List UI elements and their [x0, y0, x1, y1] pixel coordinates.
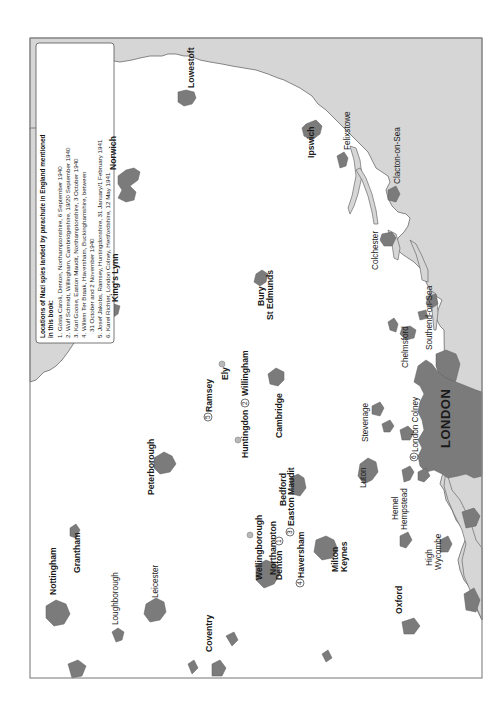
label-nottingham: Nottingham [48, 547, 58, 595]
label-wycombe: Wycombe [434, 533, 443, 570]
label-lowestoft: Lowestoft [186, 47, 196, 88]
label-denton: Denton [274, 550, 284, 580]
legend-item-4b: 31 October and 2 November 1940 [88, 238, 95, 332]
label-ipswich: Ipswich [306, 126, 316, 158]
label-hemel: Hemel [391, 496, 400, 520]
label-coventry: Coventry [204, 615, 214, 652]
label-chelmsford: Chelmsford [401, 326, 410, 368]
label-willingham: Willingham [240, 350, 250, 396]
loughborough-urban [112, 628, 124, 642]
label-london: LONDON [438, 389, 453, 448]
felixstowe-urban [337, 152, 348, 168]
norwich-urban [118, 168, 140, 202]
lowestoft-urban [178, 90, 196, 106]
ely-dot [219, 361, 225, 367]
label-leicester: Leicester [151, 565, 160, 598]
aylesbury-urban [400, 532, 412, 548]
legend-item-3: 3. Karl Goose, Easton Maudit, Northampto… [72, 158, 79, 338]
legend-title: Locations of Nazi spies landed by parach… [39, 134, 47, 338]
nuneaton-urban [188, 660, 198, 674]
oxford-urban [402, 618, 420, 634]
legend-item-1: 1. Gösta Caroli, Denton, Northamptonshir… [56, 166, 63, 338]
legend-item-5: 5. Josef Jakobs, Ramsey, Huntingdonshire… [96, 139, 103, 338]
rugby-urban [226, 632, 238, 646]
label-oxford: Oxford [394, 586, 404, 614]
marker-1: 1 [275, 537, 283, 545]
hatfield-urban [382, 420, 394, 432]
label-st-edmunds: St Edmunds [265, 270, 275, 320]
marker-3: 3 [286, 528, 294, 536]
label-wellingborough: Wellingborough [254, 515, 264, 580]
stevenage-urban [372, 402, 384, 416]
derby-urban [68, 660, 86, 678]
coventry-urban [212, 660, 226, 676]
marker-6: 6 [410, 453, 418, 461]
label-norwich: Norwich [108, 136, 118, 170]
label-cambridge: Cambridge [274, 393, 284, 438]
legend: Locations of Nazi spies landed by parach… [36, 43, 114, 343]
label-southend: Southend-on-Sea [425, 285, 434, 350]
marker-2: 2 [241, 399, 249, 407]
label-huntingdon: Huntingdon [240, 410, 250, 458]
label-easton-maudit: Easton Maudit [286, 467, 296, 526]
nottingham-urban [46, 600, 70, 626]
marker-5-number: 5 [204, 415, 211, 419]
label-loughborough: Loughborough [111, 572, 120, 625]
marker-6-number: 6 [410, 455, 417, 459]
peterborough-urban [154, 452, 176, 474]
legend-title-2: in this book: [47, 300, 54, 338]
legend-item-4: 4. Willem Ter Braak, Haversham, Buckingh… [80, 171, 87, 338]
wellingborough-dot [247, 532, 253, 538]
orwell-estuary [348, 146, 362, 214]
label-colchester: Colchester [371, 231, 380, 270]
marker-3-number: 3 [286, 530, 293, 534]
label-luton: Luton [359, 467, 368, 488]
label-london-colney: London Colney [411, 396, 420, 452]
label-kings-lynn: King's Lynn [110, 253, 120, 302]
marker-5: 5 [204, 413, 212, 421]
town-labels: Lowestoft Norwich King's Lynn Felixstowe… [48, 47, 453, 652]
label-keynes: Keynes [339, 541, 349, 572]
marker-2-number: 2 [241, 401, 248, 405]
banbury-urban [322, 650, 332, 662]
marker-1-number: 1 [275, 539, 282, 543]
cambridge-urban [268, 368, 284, 386]
label-clacton: Clacton-on-Sea [393, 127, 402, 184]
essex-town-1 [388, 318, 398, 332]
label-ely: Ely [220, 367, 230, 380]
label-stevenage: Stevenage [361, 402, 370, 442]
map-canvas: Locations of Nazi spies landed by parach… [0, 0, 504, 720]
label-peterborough: Peterborough [146, 439, 156, 495]
label-ramsey: Ramsey [204, 379, 214, 412]
label-grantham: Grantham [72, 532, 82, 573]
label-haversham: Haversham [296, 531, 306, 578]
marker-4: 4 [296, 579, 304, 587]
hemel-urban [402, 466, 414, 482]
label-high: High [425, 549, 434, 566]
leicester-urban [144, 598, 166, 622]
label-felixstowe: Felixstowe [343, 111, 352, 150]
label-hempstead: Hempstead [400, 488, 409, 530]
marker-4-number: 4 [296, 581, 303, 585]
legend-item-2: 2. Wulf Schmidt, Willingham, Cambridgesh… [64, 147, 71, 338]
